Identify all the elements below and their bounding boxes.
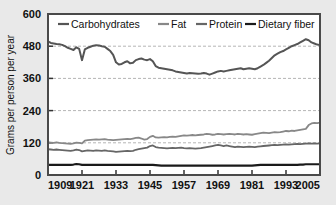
y-tick-label: 0: [35, 169, 41, 181]
legend-label-dietary-fiber: Dietary fiber: [258, 18, 315, 30]
legend-label-fat: Fat: [171, 18, 186, 30]
y-tick-label: 480: [23, 40, 41, 52]
line-chart: 0120240360480600 19091921193319451957196…: [0, 0, 336, 205]
x-tick-label: 1933: [104, 179, 128, 191]
y-axis-label: Grams per person per year: [5, 34, 16, 155]
y-tick-label: 120: [23, 137, 41, 149]
x-tick-label: 1921: [70, 179, 94, 191]
x-tick-labels: 190919211933194519571969198119932005: [48, 179, 320, 191]
x-tick-label: 1945: [138, 179, 162, 191]
x-tick-label: 2005: [296, 179, 320, 191]
legend-label-protein: Protein: [209, 18, 242, 30]
chart-figure: 0120240360480600 19091921193319451957196…: [0, 0, 336, 205]
y-tick-label: 360: [23, 72, 41, 84]
legend-label-carbohydrates: Carbohydrates: [71, 18, 140, 30]
x-tick-label: 1969: [206, 179, 230, 191]
x-tick-label: 1981: [240, 179, 264, 191]
x-tick-label: 1957: [172, 179, 196, 191]
y-tick-label: 600: [23, 8, 41, 20]
y-tick-label: 240: [23, 105, 41, 117]
